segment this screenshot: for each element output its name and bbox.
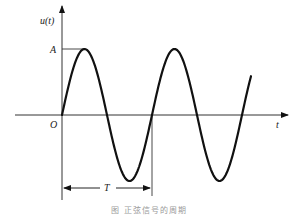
sine-wave-diagram: u(t) A O t T bbox=[0, 0, 298, 218]
y-axis-label: u(t) bbox=[40, 15, 55, 27]
amplitude-label: A bbox=[49, 44, 57, 55]
origin-label: O bbox=[50, 119, 57, 130]
period-label: T bbox=[104, 182, 111, 193]
x-axis-label: t bbox=[276, 119, 279, 130]
figure-caption: 图 正弦信号的周期 bbox=[0, 204, 298, 215]
